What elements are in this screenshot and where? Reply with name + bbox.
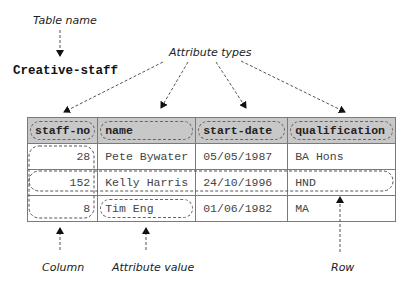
cell-start-date: 05/05/1987 xyxy=(196,144,288,170)
table-name: Creative-staff xyxy=(13,64,118,78)
cell-qualification: BA Hons xyxy=(288,144,396,170)
cell-qualification: MA xyxy=(288,196,396,222)
table-name-annotation: Table name xyxy=(33,14,97,27)
cell-name: Pete Bywater xyxy=(98,144,196,170)
column-header-qualification: qualification xyxy=(288,118,396,144)
table-row: 152 Kelly Harris 24/10/1996 HND xyxy=(28,170,396,196)
table-row: 28 Pete Bywater 05/05/1987 BA Hons xyxy=(28,144,396,170)
cell-start-date: 24/10/1996 xyxy=(196,170,288,196)
cell-staff-no: 28 xyxy=(28,144,98,170)
relation-table: staff-no name start-date qualification 2… xyxy=(27,117,396,222)
cell-name: Tim Eng xyxy=(98,196,196,222)
column-header-staff-no: staff-no xyxy=(28,118,98,144)
table-row: 8 Tim Eng 01/06/1982 MA xyxy=(28,196,396,222)
cell-start-date: 01/06/1982 xyxy=(196,196,288,222)
column-header-name: name xyxy=(98,118,196,144)
column-annotation: Column xyxy=(42,261,84,274)
header-row: staff-no name start-date qualification xyxy=(28,118,396,144)
row-annotation: Row xyxy=(331,261,354,274)
attribute-value-annotation: Attribute value xyxy=(112,261,194,274)
column-header-start-date: start-date xyxy=(196,118,288,144)
cell-name: Kelly Harris xyxy=(98,170,196,196)
cell-staff-no: 152 xyxy=(28,170,98,196)
cell-qualification: HND xyxy=(288,170,396,196)
cell-staff-no: 8 xyxy=(28,196,98,222)
attribute-types-annotation: Attribute types xyxy=(169,46,252,59)
